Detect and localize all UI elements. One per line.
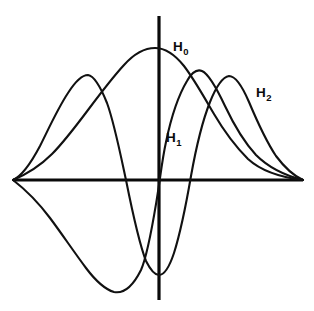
curve-label-h2-base: H	[256, 85, 266, 100]
hermite-functions-figure: H0 H1 H2	[0, 0, 314, 311]
curve-label-h1-base: H	[166, 130, 176, 145]
plot-canvas	[0, 0, 314, 311]
curve-label-h2: H2	[256, 86, 271, 100]
curve-label-h1-subscript: 1	[176, 137, 181, 148]
curve-label-h0-subscript: 0	[183, 46, 188, 57]
curve-label-h0-base: H	[173, 39, 183, 54]
curve-label-h2-subscript: 2	[266, 92, 271, 103]
curve-label-h0: H0	[173, 40, 188, 54]
curve-label-h1: H1	[166, 131, 181, 145]
